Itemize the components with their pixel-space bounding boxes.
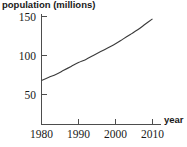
x-tick-label-2010: 2010 <box>141 128 164 140</box>
population-growth-chart: population (millions) 150 100 50 1980 19… <box>0 0 187 147</box>
x-axis-title: year <box>164 114 184 125</box>
population-curve <box>42 19 153 81</box>
y-tick-label-150: 150 <box>19 11 37 23</box>
y-axis-title: population (millions) <box>2 0 95 10</box>
x-tick-label-1990: 1990 <box>67 128 90 140</box>
chart-figure: population (millions) 150 100 50 1980 19… <box>0 0 187 147</box>
x-tick-label-2000: 2000 <box>104 128 127 140</box>
y-tick-label-100: 100 <box>19 50 37 62</box>
y-tick-label-50: 50 <box>25 89 37 101</box>
x-tick-label-1980: 1980 <box>30 128 53 140</box>
